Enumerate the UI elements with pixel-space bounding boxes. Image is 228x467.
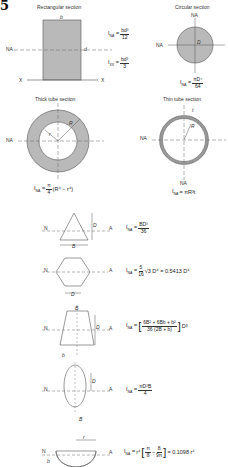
label-na: NA xyxy=(6,46,13,52)
circular-section-title: Circular section xyxy=(175,4,209,10)
formula-rect-na: INA = bd³12 xyxy=(108,28,129,40)
label-N: N xyxy=(44,386,48,392)
trapezoid-drawing xyxy=(42,305,110,355)
formula-thick-tube: INA = π4 (R⁴ − r⁴) xyxy=(34,183,73,195)
label-x-right: X xyxy=(101,77,104,83)
ellipse-drawing xyxy=(42,362,110,412)
formula-rect-xx: IXX = bd³3 xyxy=(108,57,129,69)
triangle-drawing xyxy=(42,213,110,245)
label-t: t xyxy=(192,107,193,113)
formula-thin-tube: INA = πR³t xyxy=(172,188,195,196)
thick-tube-title: Thick tube section xyxy=(35,96,75,102)
label-D: D xyxy=(93,222,97,228)
label-D: D xyxy=(96,324,100,330)
label-r: r xyxy=(83,434,85,440)
label-D: D xyxy=(197,39,201,45)
circular-section-drawing xyxy=(168,18,225,73)
label-A: A xyxy=(109,449,112,455)
formula-trapezoid: INA = [ 6B² + 6Bb + b²36 (2B + b) ] D³ xyxy=(126,320,188,332)
label-R: R xyxy=(191,123,195,129)
thin-tube-title: Thin tube section xyxy=(163,96,201,102)
semicircle-drawing xyxy=(42,440,110,467)
hexagon-drawing xyxy=(42,258,108,293)
thick-tube-drawing xyxy=(18,103,104,180)
label-A: A xyxy=(109,325,112,331)
formula-ellipse: INA = πD³B4 xyxy=(126,384,152,396)
label-N: N xyxy=(44,225,48,231)
label-N: N xyxy=(44,267,48,273)
label-na-bottom: NA xyxy=(180,180,187,186)
formula-triangle: INA = BD³36 xyxy=(126,222,149,234)
label-A: A xyxy=(109,225,112,231)
formula-hexagon: INA = 516 √3 D⁴ = 0.5413 D⁴ xyxy=(126,265,190,277)
label-D: D xyxy=(92,378,96,384)
label-x-left: X xyxy=(19,77,22,83)
section-diagrams xyxy=(0,0,228,467)
label-R: R xyxy=(69,120,73,126)
label-B: B xyxy=(75,305,78,311)
label-na-left: NA xyxy=(156,42,163,48)
label-na-left: NA xyxy=(140,135,147,141)
label-A: A xyxy=(109,386,112,392)
label-N: N xyxy=(44,325,48,331)
rectangular-section-drawing xyxy=(14,20,112,80)
formula-semicircle: INA = r⁴ [ π8 − 89π ] = 0.1098 r⁴ xyxy=(124,446,195,458)
label-r: r xyxy=(49,131,51,137)
label-A: A xyxy=(109,267,112,273)
label-b: b xyxy=(47,458,50,464)
label-na-top: NA xyxy=(191,12,198,18)
formula-circular: INA = πD⁴64 xyxy=(180,77,203,89)
label-d: d xyxy=(84,46,87,52)
thin-tube-drawing xyxy=(152,105,226,180)
label-B: B xyxy=(79,416,82,422)
label-b: b xyxy=(62,352,65,358)
label-N: N xyxy=(42,448,46,454)
label-b: b xyxy=(60,14,63,20)
label-B: B xyxy=(72,243,75,249)
label-D: D xyxy=(71,291,75,297)
rectangular-section-title: Rectangular section xyxy=(37,4,81,10)
label-na: NA xyxy=(6,137,13,143)
